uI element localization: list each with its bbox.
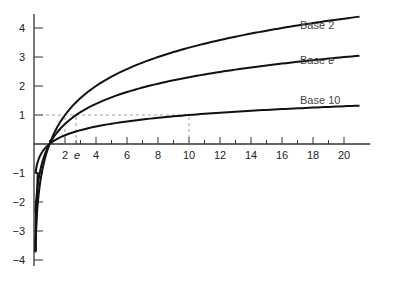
curves [36, 17, 360, 253]
y-tick-label: 3 [19, 51, 25, 63]
label-base-10: Base 10 [300, 94, 340, 106]
x-tick-label: 12 [214, 149, 226, 161]
series-labels: Base 2 Base e Base 10 [300, 19, 340, 106]
x-tick-label: 2 [62, 149, 68, 161]
y-tick-label: 2 [19, 80, 25, 92]
axes: 2468101214161820e−4−3−2−11234 [12, 14, 370, 266]
x-tick-label: 16 [276, 149, 288, 161]
y-tick-label: 4 [19, 22, 25, 34]
y-tick-label: −1 [12, 167, 25, 179]
y-tick-label: −3 [12, 225, 25, 237]
x-tick-label: 6 [124, 149, 130, 161]
curve-base-10 [36, 106, 360, 252]
x-tick-label: 10 [183, 149, 195, 161]
x-tick-label: 14 [245, 149, 257, 161]
x-tick-label: 18 [307, 149, 319, 161]
e-tick-label: e [74, 149, 80, 161]
y-tick-label: −2 [12, 196, 25, 208]
x-tick-label: 20 [338, 149, 350, 161]
log-chart: 2468101214161820e−4−3−2−11234 Base 2 Bas… [0, 0, 410, 283]
label-base-2: Base 2 [300, 19, 334, 31]
y-tick-label: −4 [12, 254, 25, 266]
x-tick-label: 8 [155, 149, 161, 161]
label-base-e: Base e [300, 54, 334, 66]
curve-base-2 [36, 17, 360, 253]
y-tick-label: 1 [19, 109, 25, 121]
x-tick-label: 4 [93, 149, 99, 161]
